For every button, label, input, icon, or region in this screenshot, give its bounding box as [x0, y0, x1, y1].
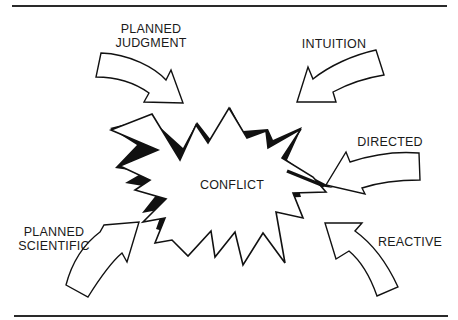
planned-judgment-line2: JUDGMENT — [108, 36, 194, 50]
planned-judgment-line1: PLANNED — [108, 22, 194, 36]
intuition-line1: INTUITION — [296, 37, 372, 51]
label-directed: DIRECTED — [354, 135, 426, 149]
reactive-line1: REACTIVE — [376, 235, 444, 249]
label-planned-scientific: PLANNED SCIENTIFIC — [14, 225, 94, 253]
planned-scientific-line2: SCIENTIFIC — [14, 239, 94, 253]
diagram-canvas: CONFLICT PLANNED JUDGMENT INTUITION DIRE… — [0, 0, 458, 320]
reactive-arrow-icon — [325, 223, 398, 296]
label-planned-judgment: PLANNED JUDGMENT — [108, 22, 194, 50]
diagram-graphics — [0, 0, 458, 320]
label-reactive: REACTIVE — [376, 235, 444, 249]
center-label: CONFLICT — [197, 178, 267, 192]
conflict-label: CONFLICT — [200, 178, 264, 192]
planned-judgment-arrow-icon — [96, 53, 183, 103]
planned-scientific-line1: PLANNED — [14, 225, 94, 239]
directed-line1: DIRECTED — [354, 135, 426, 149]
label-intuition: INTUITION — [296, 37, 372, 51]
directed-arrow-icon — [326, 152, 420, 194]
intuition-arrow-icon — [297, 50, 384, 102]
